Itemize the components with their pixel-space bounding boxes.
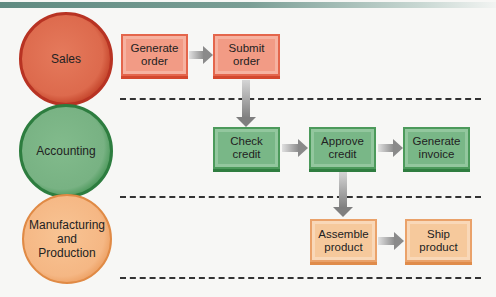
step-generate-invoice-label: Generate invoice: [405, 135, 468, 161]
step-generate-invoice: Generate invoice: [403, 127, 470, 169]
lane-accounting-label: Accounting: [36, 144, 95, 158]
lane-sales: Sales: [19, 12, 113, 106]
step-ship-product: Ship product: [405, 219, 472, 262]
arrow-right-icon: [189, 49, 213, 61]
step-approve-credit: Approve credit: [309, 127, 376, 169]
step-check-credit-label: Check credit: [215, 135, 278, 161]
step-generate-order: Generate order: [121, 34, 188, 76]
lane-sales-label: Sales: [51, 52, 81, 66]
step-approve-credit-label: Approve credit: [311, 135, 374, 161]
arrow-down-icon: [336, 172, 350, 218]
step-submit-order: Submit order: [213, 34, 280, 76]
lane-accounting: Accounting: [19, 104, 113, 198]
step-assemble-product: Assemble product: [310, 219, 377, 262]
step-check-credit: Check credit: [213, 127, 280, 169]
arrow-right-icon: [378, 142, 403, 154]
step-generate-order-label: Generate order: [123, 42, 186, 68]
lane-divider-1: [120, 98, 481, 100]
lane-divider-3: [120, 277, 481, 279]
lane-manufacturing: Manufacturing and Production: [22, 194, 112, 284]
step-submit-order-label: Submit order: [215, 42, 278, 68]
arrow-right-icon: [378, 235, 404, 247]
arrow-down-icon: [239, 80, 253, 128]
lane-divider-2: [120, 196, 481, 198]
arrow-right-icon: [282, 142, 308, 154]
step-assemble-product-label: Assemble product: [312, 228, 375, 254]
lane-manufacturing-label: Manufacturing and Production: [29, 218, 105, 260]
header-bar: [0, 2, 496, 8]
step-ship-product-label: Ship product: [407, 228, 470, 254]
